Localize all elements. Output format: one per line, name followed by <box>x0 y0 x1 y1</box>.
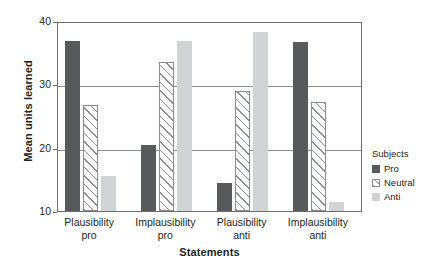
legend-item-pro[interactable]: Pro <box>372 163 415 174</box>
bar-anti <box>329 202 344 212</box>
bar-group <box>58 23 134 211</box>
legend-label-pro: Pro <box>384 163 399 174</box>
legend-entries: ProNeutralAnti <box>372 163 415 202</box>
bar-group <box>134 23 210 211</box>
bar-chart-figure: Mean units learned 10203040 Plausibility… <box>0 0 436 268</box>
x-tick-label: Implausibilityanti <box>263 216 373 242</box>
bar-pro <box>141 145 156 212</box>
bar-pro <box>217 183 232 212</box>
y-tick-label-30: 30 <box>25 78 51 90</box>
x-tick-label-line: anti <box>263 229 373 242</box>
bar-neutral <box>311 102 326 211</box>
bar-pro <box>293 42 308 211</box>
x-axis-title: Statements <box>57 246 362 258</box>
legend-swatch-neutral <box>372 179 380 187</box>
legend-title: Subjects <box>372 148 415 159</box>
legend-item-anti[interactable]: Anti <box>372 191 415 202</box>
bar-neutral <box>83 105 98 211</box>
legend-swatch-anti <box>372 193 380 201</box>
bar-anti <box>177 41 192 211</box>
plot-area <box>57 22 362 212</box>
y-tick-label-20: 20 <box>25 142 51 154</box>
bar-group <box>287 23 363 211</box>
legend-item-neutral[interactable]: Neutral <box>372 177 415 188</box>
bar-group <box>211 23 287 211</box>
legend-label-anti: Anti <box>384 191 400 202</box>
y-tick-label-40: 40 <box>25 15 51 27</box>
bar-anti <box>253 32 268 211</box>
x-tick-label-line: Implausibility <box>263 216 373 229</box>
legend-swatch-pro <box>372 165 380 173</box>
y-axis-title: Mean units learned <box>22 31 34 191</box>
y-tick-mark-10 <box>53 212 57 213</box>
legend-label-neutral: Neutral <box>384 177 415 188</box>
plot-inner <box>58 23 361 211</box>
bar-pro <box>65 41 80 211</box>
bar-neutral <box>235 91 250 211</box>
bar-anti <box>101 176 116 211</box>
bar-neutral <box>159 62 174 211</box>
legend: Subjects ProNeutralAnti <box>372 148 415 205</box>
